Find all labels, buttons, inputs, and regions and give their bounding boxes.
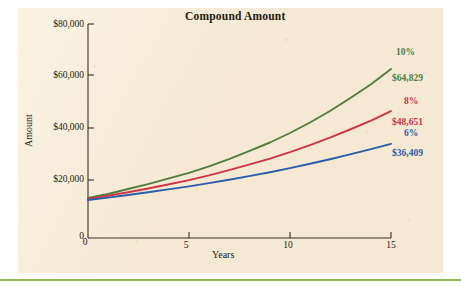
series-rate-label-10-percent: 10% [396, 47, 415, 57]
series-end-value-label-8-percent: $48,651 [392, 117, 423, 127]
x-axis-tick-label-0: 0 [75, 237, 95, 247]
series-end-value-label-6-percent: $36,409 [392, 148, 423, 158]
x-axis-tick-label-10: 10 [278, 240, 298, 250]
compound-amount-figure: Compound Amount $80,000 $60,000 $40,000 … [0, 0, 461, 287]
y-axis-title: Amount [23, 101, 34, 161]
series-end-value-label-10-percent: $64,829 [392, 73, 423, 83]
x-axis-tick-label-5: 5 [176, 240, 196, 250]
x-axis-tick-label-15: 15 [381, 240, 401, 250]
bottom-divider-rule [0, 279, 461, 281]
y-axis-tick-label-60000: $60,000 [32, 70, 84, 80]
series-lines [88, 69, 391, 200]
y-axis-tick-label-20000: $20,000 [32, 174, 84, 184]
series-rate-label-8-percent: 8% [404, 96, 418, 106]
chart-title: Compound Amount [185, 10, 285, 22]
series-rate-label-6-percent: 6% [404, 128, 418, 138]
y-axis-ticks [88, 24, 94, 180]
y-axis-tick-label-80000: $80,000 [32, 19, 84, 29]
x-axis-ticks [189, 232, 391, 238]
y-axis-tick-label-40000: $40,000 [32, 122, 84, 132]
x-axis-title: Years [212, 249, 234, 260]
